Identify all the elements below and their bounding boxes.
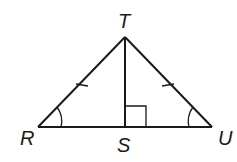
triangle-diagram: T R S U: [0, 0, 237, 162]
angle-arc-r: [57, 107, 62, 127]
vertex-label-u: U: [218, 127, 233, 149]
vertex-label-s: S: [117, 134, 131, 156]
side-tu: [125, 37, 212, 127]
right-angle-mark: [125, 106, 146, 127]
vertex-label-t: T: [118, 10, 132, 32]
vertex-label-r: R: [20, 127, 34, 149]
side-tr: [38, 37, 125, 127]
angle-arc-u: [188, 107, 193, 127]
